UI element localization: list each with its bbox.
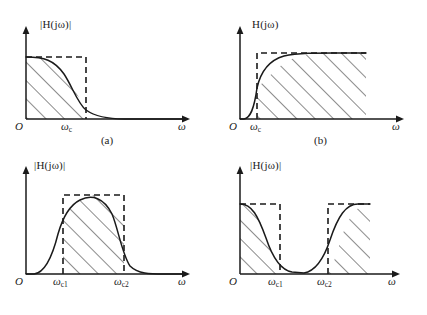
tick-label-cutoff-1: ωc1 [53,275,68,289]
y-axis-label: H(jω) [252,18,279,30]
tick-label-cutoff: ωc [61,120,72,134]
tick-label-cutoff-1: ωc1 [268,275,283,289]
panel-d-band-stop: |H(jω)| O ω ωc1 ωc2 (d) [214,158,427,315]
origin-label: O [229,120,237,132]
y-axis-arrow [237,166,244,174]
passband-hatch-region [252,45,377,125]
panel-c-plot [0,158,214,315]
y-axis-arrow [23,166,30,174]
tick-label-cutoff-1-main: ω [53,275,61,287]
tick-label-cutoff-sub: c [258,125,261,134]
tick-label-cutoff-sub: c [69,125,72,134]
y-axis-label: |H(jω)| [250,159,281,171]
panel-a-low-pass: |H(jω)| O ω ωc (a) [0,0,214,158]
origin-label: O [229,275,237,287]
x-axis-label: ω [178,275,186,287]
stopband-hatch-region-left [234,198,294,280]
tick-label-cutoff-2-sub: c2 [122,280,129,289]
tick-label-cutoff-main: ω [61,120,69,132]
origin-label: O [15,275,23,287]
y-axis-label: |H(jω)| [34,159,65,171]
x-axis-label: ω [178,120,186,132]
tick-label-cutoff-2: ωc2 [114,275,129,289]
figure-grid: |H(jω)| O ω ωc (a) [0,0,427,315]
tick-label-cutoff-1-main: ω [268,275,276,287]
tick-label-cutoff-2-main: ω [317,275,325,287]
y-axis-label: |H(jω)| [40,18,71,30]
tick-label-cutoff-2-sub: c2 [325,280,332,289]
origin-label: O [15,120,23,132]
tick-label-cutoff-2-main: ω [114,275,122,287]
x-axis-label: ω [388,275,396,287]
passband-hatch-region [20,50,100,125]
passband-hatch-region [55,188,140,280]
tick-label-cutoff-1-sub: c1 [276,280,283,289]
y-axis-arrow [23,26,30,34]
tick-label-cutoff: ωc [250,120,261,134]
tick-label-cutoff-1-sub: c1 [61,280,68,289]
panel-caption-a: (a) [0,134,214,146]
tick-label-cutoff-main: ω [250,120,258,132]
panel-caption-b: (b) [214,134,427,146]
panel-d-plot [214,158,427,315]
y-axis-arrow [237,26,244,34]
panel-b-high-pass: H(jω) O ω ωc (b) [214,0,427,158]
x-axis-label: ω [392,120,400,132]
panel-c-band-pass: |H(jω)| O ω ωc1 ωc2 (c) [0,158,214,315]
tick-label-cutoff-2: ωc2 [317,275,332,289]
